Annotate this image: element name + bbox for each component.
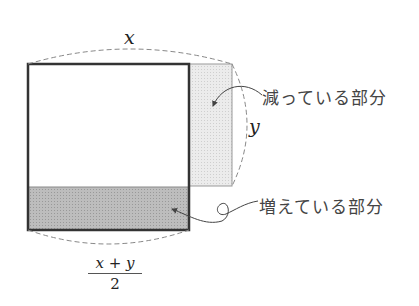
label-bottom-fraction: x + y 2 <box>88 254 142 293</box>
right-dashed-arc <box>232 64 247 186</box>
increasing-part-region <box>28 187 189 230</box>
top-dashed-arc <box>28 49 232 64</box>
label-increasing-part: 増えている部分 <box>259 193 384 218</box>
label-x: x <box>124 26 135 48</box>
label-decreasing-part: 減っている部分 <box>262 84 387 109</box>
decreasing-part-region <box>189 64 232 186</box>
fraction-numerator: x + y <box>88 254 142 274</box>
diagram-canvas <box>0 0 419 306</box>
label-y: y <box>249 115 260 137</box>
fraction-denominator: 2 <box>88 274 142 293</box>
bottom-dashed-arc <box>28 230 189 244</box>
